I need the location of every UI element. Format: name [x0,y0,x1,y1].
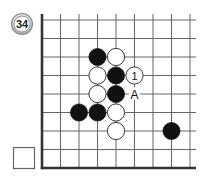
black-stone [89,104,106,121]
black-stone [107,85,124,102]
problem-number-badge: 34 [12,14,33,35]
markers-layer: A [129,87,140,102]
marker-label: A [130,88,138,102]
white-stone: 1 [126,67,143,84]
white-stone [107,48,124,65]
black-stone [70,104,87,121]
answer-box[interactable] [14,148,35,169]
white-stone [107,122,124,139]
go-problem-diagram: 34 1 A [0,0,203,178]
white-stone [89,67,106,84]
white-stone [89,85,106,102]
black-stone [107,67,124,84]
stone-move-number: 1 [131,70,137,82]
black-stone [163,122,180,139]
white-stone [107,104,124,121]
black-stone [89,48,106,65]
problem-number: 34 [16,18,29,30]
point-marker-a: A [129,87,140,102]
